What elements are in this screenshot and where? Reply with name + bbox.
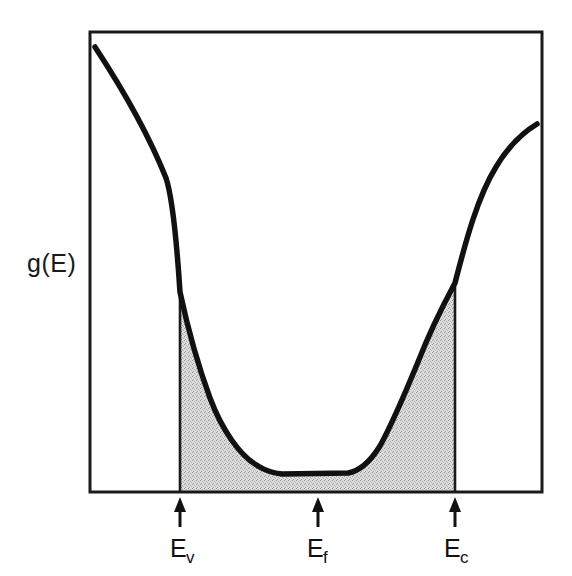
density-of-states-chart: g(E) E v E f E c (0, 0, 572, 576)
y-axis-label: g(E) (27, 249, 76, 277)
tick-label-ec-base: E (444, 534, 461, 562)
figure-root: g(E) E v E f E c (0, 0, 572, 576)
tick-label-ev-base: E (170, 534, 187, 562)
tick-label-ev-subscript: v (186, 548, 195, 567)
tick-label-ef-base: E (307, 534, 324, 562)
tick-label-ec-subscript: c (460, 548, 469, 567)
tick-label-ef-subscript: f (323, 548, 328, 567)
